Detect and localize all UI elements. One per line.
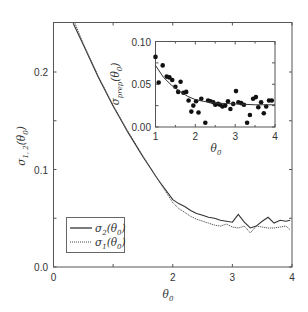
data-point bbox=[262, 111, 267, 116]
inset-x-tick-label: 1 bbox=[153, 131, 159, 142]
y-tick-label: 0.2 bbox=[34, 67, 48, 78]
inset-y-tick-label: 0.10 bbox=[132, 37, 152, 48]
chart: 02340.00.10.2 θ0 σ1, 2(θ0) 12340.000.050… bbox=[0, 0, 308, 312]
data-point bbox=[156, 80, 161, 85]
data-point bbox=[186, 98, 191, 103]
x-tick-label: 2 bbox=[170, 272, 176, 283]
y-tick-label: 0.1 bbox=[34, 165, 48, 176]
data-point bbox=[170, 78, 175, 83]
inset-x-tick-label: 3 bbox=[232, 131, 238, 142]
data-point bbox=[259, 100, 264, 105]
legend: σ2(θ0) σ1(θ0) bbox=[67, 218, 126, 253]
data-point bbox=[203, 120, 208, 125]
main-y-axis-label: σ1, 2(θ0) bbox=[15, 126, 30, 166]
data-point bbox=[248, 113, 253, 118]
data-point bbox=[226, 99, 231, 104]
x-tick-label: 0 bbox=[51, 272, 57, 283]
inset-y-tick-label: 0.00 bbox=[132, 122, 152, 133]
data-point bbox=[178, 79, 183, 84]
data-point bbox=[256, 105, 261, 110]
x-tick-label: 4 bbox=[289, 272, 295, 283]
y-tick-label: 0.0 bbox=[34, 262, 48, 273]
data-point bbox=[153, 55, 158, 60]
data-point bbox=[191, 103, 196, 108]
data-point bbox=[160, 63, 165, 68]
main-x-axis-label: θ0 bbox=[163, 288, 174, 303]
inset-x-tick-label: 2 bbox=[193, 131, 199, 142]
inset-x-axis-label: θ0 bbox=[211, 142, 222, 157]
data-point bbox=[196, 110, 201, 115]
data-point bbox=[234, 89, 239, 94]
data-point bbox=[270, 98, 275, 103]
data-point bbox=[184, 90, 189, 95]
data-point bbox=[189, 109, 194, 114]
data-point bbox=[254, 95, 259, 100]
inset-y-tick-label: 0.05 bbox=[132, 79, 152, 90]
data-point bbox=[228, 107, 233, 112]
data-point bbox=[245, 120, 250, 125]
inset-x-tick-label: 4 bbox=[272, 131, 278, 142]
x-tick-label: 3 bbox=[230, 272, 236, 283]
inset-plot-frame bbox=[156, 42, 276, 128]
inset-y-axis-label: σprep(θ0) bbox=[109, 63, 124, 106]
